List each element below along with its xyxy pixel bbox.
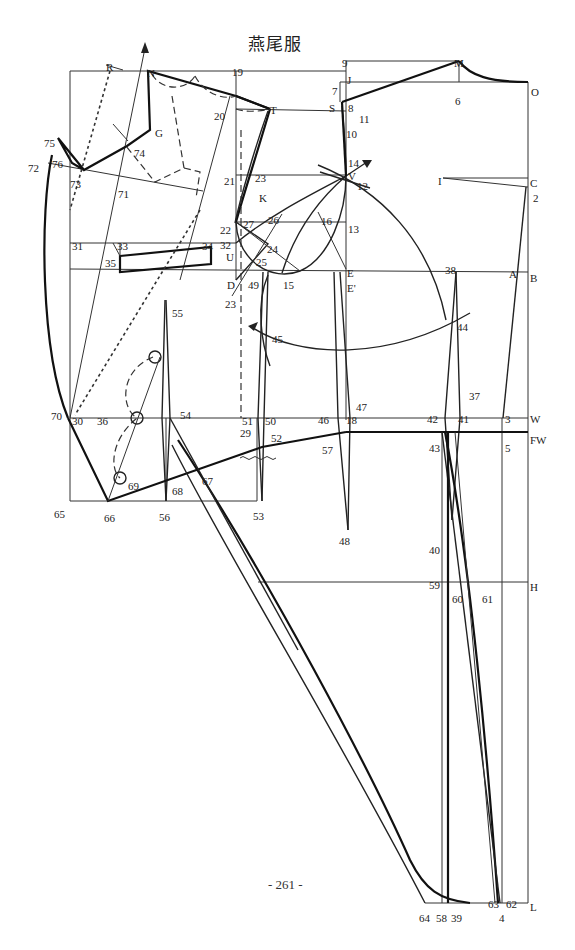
- point-label: 44: [457, 321, 469, 333]
- point-label: 20: [214, 110, 226, 122]
- point-label: 18: [346, 414, 358, 426]
- point-label: 30: [72, 415, 84, 427]
- point-label: T: [270, 104, 277, 116]
- point-label: 75: [44, 137, 56, 149]
- point-label: 61: [482, 593, 493, 605]
- point-label: 37: [469, 390, 481, 402]
- darts: [162, 187, 526, 530]
- point-label: 12: [357, 180, 368, 192]
- point-label: 11: [359, 113, 370, 125]
- point-label: 38: [445, 264, 457, 276]
- point-label: 54: [180, 409, 192, 421]
- point-label: 3: [505, 413, 511, 425]
- point-label: 69: [128, 480, 140, 492]
- point-label: 72: [28, 162, 39, 174]
- point-label: E': [347, 282, 356, 294]
- point-label: R: [106, 61, 114, 73]
- point-label: 19: [232, 66, 244, 78]
- point-label: B: [530, 272, 537, 284]
- point-label: 16: [321, 215, 333, 227]
- point-label: 13: [348, 223, 360, 235]
- point-label: 62: [506, 898, 517, 910]
- point-labels: RN199MJ7O6S8111020TG757476727371142123V1…: [28, 57, 547, 924]
- point-label: 39: [451, 912, 463, 924]
- point-label: 51: [242, 415, 253, 427]
- point-label: 63: [488, 898, 500, 910]
- point-label: 65: [54, 508, 66, 520]
- point-label: 67: [202, 475, 214, 487]
- point-label: 25: [256, 256, 268, 268]
- point-label: 23: [255, 172, 267, 184]
- armhole-curves: [232, 106, 470, 366]
- point-label: 49: [248, 279, 260, 291]
- point-label: 41: [458, 413, 469, 425]
- point-label: V: [348, 170, 356, 182]
- point-label: 64: [419, 912, 431, 924]
- point-label: I: [438, 175, 442, 187]
- point-label: 70: [51, 410, 63, 422]
- point-label: U: [226, 251, 234, 263]
- point-label: 15: [283, 279, 295, 291]
- point-label: 31: [72, 240, 83, 252]
- point-label: 74: [134, 147, 146, 159]
- point-label: 55: [172, 307, 184, 319]
- point-label: FW: [530, 434, 547, 446]
- point-label: 27: [243, 218, 255, 230]
- point-label: 42: [427, 413, 438, 425]
- point-label: 33: [117, 240, 129, 252]
- point-label: 14: [348, 157, 360, 169]
- point-label: 5: [505, 442, 511, 454]
- point-label: 56: [159, 511, 171, 523]
- point-label: 57: [322, 444, 334, 456]
- point-label: G: [155, 127, 163, 139]
- point-label: 53: [253, 510, 265, 522]
- point-label: 35: [105, 257, 117, 269]
- point-label: 34: [202, 240, 214, 252]
- point-label: S: [329, 102, 335, 114]
- point-label: 26: [268, 214, 280, 226]
- point-label: E: [347, 267, 354, 279]
- point-label: D: [227, 279, 235, 291]
- point-label: 47: [356, 401, 368, 413]
- point-label: 59: [429, 579, 441, 591]
- point-label: 29: [240, 427, 252, 439]
- point-label: 6: [455, 95, 461, 107]
- point-label: M: [454, 57, 464, 69]
- point-label: 21: [224, 175, 235, 187]
- point-label: 71: [118, 188, 129, 200]
- point-label: 73: [70, 178, 82, 190]
- point-label: 24: [267, 243, 279, 255]
- tailcoat-pattern-diagram: RN199MJ7O6S8111020TG757476727371142123V1…: [0, 0, 575, 950]
- point-label: O: [531, 86, 539, 98]
- point-label: J: [347, 74, 352, 86]
- point-label: 48: [339, 535, 351, 547]
- point-label: 36: [97, 415, 109, 427]
- point-label: 4: [499, 912, 505, 924]
- point-label: 32: [220, 239, 231, 251]
- point-label: 46: [318, 414, 330, 426]
- point-label: 68: [172, 485, 184, 497]
- point-label: L: [530, 901, 537, 913]
- point-label: H: [530, 581, 538, 593]
- point-label: 60: [452, 593, 464, 605]
- page-number: - 261 -: [268, 877, 303, 893]
- point-label: 66: [104, 512, 116, 524]
- point-label: 50: [265, 415, 277, 427]
- point-label: 52: [271, 432, 282, 444]
- point-label: 43: [429, 442, 441, 454]
- point-label: A: [509, 268, 517, 280]
- point-label: 76: [52, 158, 64, 170]
- point-label: 8: [348, 102, 354, 114]
- point-label: N: [147, 67, 155, 79]
- point-label: 10: [346, 128, 358, 140]
- point-label: 45: [272, 333, 284, 345]
- point-label: 23: [225, 298, 237, 310]
- point-label: 40: [429, 544, 441, 556]
- ease-marker: [240, 457, 276, 460]
- point-label: K: [259, 192, 267, 204]
- point-label: C: [530, 177, 537, 189]
- point-label: 7: [332, 85, 338, 97]
- point-label: W: [530, 413, 541, 425]
- point-label: 2: [533, 192, 539, 204]
- point-label: 58: [436, 912, 448, 924]
